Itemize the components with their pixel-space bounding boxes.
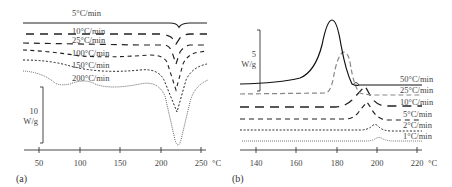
scale-unit-a: W/g [23,116,38,126]
curve-b-2 [240,125,422,132]
curve-a-10 [26,34,207,44]
scale-bar-a [40,87,43,143]
curve-b-5 [240,102,422,120]
x-tick-label: 150 [114,158,127,168]
x-tick-label: 160 [290,158,303,168]
series-label: 200°C/min [72,73,110,83]
x-unit-label: °C [212,158,221,168]
series-label: 100°C/min [72,48,110,58]
series-label: 5°C/min [72,8,102,18]
series-label: 2°C/min [403,120,433,130]
scale-unit-b: W/g [241,59,256,69]
series-label: 25°C/min [72,35,106,45]
x-tick-label: 200 [155,158,168,168]
scale-bar-b [257,30,260,91]
figure: 50 100 150 200 250 °C (a) 10 W/g 5°C/min… [0,0,452,187]
curve-a-100 [23,50,207,90]
x-tick-label: 50 [35,158,44,168]
scale-value-a: 10 [30,106,39,116]
x-tick-label: 200 [371,158,384,168]
x-tick-label: 100 [74,158,87,168]
panel-label-b: (b) [232,173,244,185]
series-label: 5°C/min [403,109,433,119]
curve-a-5 [23,23,207,28]
series-label: 50°C/min [400,74,434,84]
x-tick-label: 140 [250,158,263,168]
x-tick-label: 250 [195,158,208,168]
curve-a-25 [23,43,207,64]
curve-b-1 [242,138,422,142]
curve-b-10 [240,86,422,107]
panel-label-a: (a) [16,173,27,185]
series-label: 150°C/min [72,60,110,70]
curve-a-150 [23,60,207,112]
panel-b: 140 160 180 200 220 °C (b) 5 W/g 50°C/mi… [232,20,437,185]
curve-b-50 [240,20,422,85]
panel-a: 50 100 150 200 250 °C (a) 10 W/g 5°C/min… [16,8,221,185]
x-tick-label: 220 [411,158,424,168]
series-label: 25°C/min [400,85,434,95]
curve-b-25 [240,52,422,95]
series-label: 10°C/min [400,97,434,107]
scale-value-b: 5 [252,49,256,59]
curve-a-200 [23,71,208,145]
x-unit-label: °C [428,158,437,168]
series-label: 1°C/min [403,131,433,141]
x-tick-label: 180 [331,158,344,168]
